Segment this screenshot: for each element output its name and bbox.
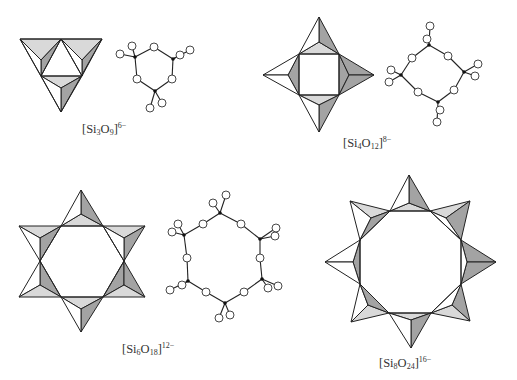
formula-o-count: 24 — [407, 362, 415, 371]
formula-charge: 12− — [162, 341, 175, 350]
formula-si4o12: [Si4O12]8− — [343, 135, 391, 151]
formula-oxygen: O — [398, 356, 407, 370]
formula-charge: 6− — [118, 121, 127, 130]
si3o9-ball-stick — [116, 42, 194, 112]
formula-oxygen: O — [141, 342, 150, 356]
formula-bracket-open: [Si — [343, 136, 358, 150]
silicate-diagram — [0, 0, 517, 380]
formula-oxygen: O — [101, 122, 110, 136]
formula-si8o24: [Si8O24]16− — [379, 355, 431, 371]
formula-o-count: 18 — [150, 348, 158, 357]
si4o12-polyhedral — [263, 17, 374, 132]
formula-o-count: 12 — [371, 142, 379, 151]
si6o18-polyhedral — [19, 190, 145, 332]
formula-oxygen: O — [362, 136, 371, 150]
formula-charge: 16− — [419, 355, 432, 364]
formula-bracket-open: [Si — [82, 122, 97, 136]
formula-bracket-open: [Si — [379, 356, 394, 370]
si6o18-ball-stick — [166, 191, 282, 322]
si8o24-polyhedral — [325, 175, 496, 348]
si4o12-ball-stick — [385, 22, 482, 126]
formula-si6o18: [Si6O18]12− — [122, 341, 174, 357]
si3o9-polyhedral — [20, 39, 102, 112]
formula-bracket-open: [Si — [122, 342, 137, 356]
formula-si3o9: [Si3O9]6− — [82, 121, 126, 137]
formula-charge: 8− — [383, 135, 392, 144]
